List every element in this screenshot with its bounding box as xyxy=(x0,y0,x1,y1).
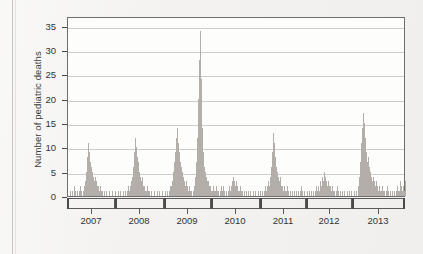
bar xyxy=(296,191,297,196)
x-axis-segment-separator xyxy=(306,198,308,209)
bar xyxy=(106,191,107,196)
x-axis-year-segment xyxy=(352,198,405,209)
y-axis-tick-label: 5 xyxy=(34,167,56,178)
bar xyxy=(118,191,119,196)
bar xyxy=(81,191,82,196)
bar xyxy=(292,191,293,196)
x-axis-tick-label: 2008 xyxy=(116,215,162,226)
page-margin-rule xyxy=(12,0,13,254)
x-axis-segment-separator xyxy=(211,198,213,209)
bar xyxy=(344,191,345,196)
x-axis-segment-separator xyxy=(403,198,405,209)
bar xyxy=(340,191,341,196)
figure-page: Number of pediatric deaths 0510152025303… xyxy=(0,0,423,254)
y-axis-title: Number of pediatric deaths xyxy=(32,10,43,210)
bar xyxy=(288,191,289,196)
x-axis-tick xyxy=(139,209,140,214)
x-axis-year-segment xyxy=(164,198,211,209)
bar xyxy=(294,191,295,196)
x-axis-tick-label: 2012 xyxy=(306,215,352,226)
x-axis-year-segment xyxy=(115,198,164,209)
x-axis-year-segment xyxy=(306,198,352,209)
bar xyxy=(224,191,225,196)
bar xyxy=(260,191,261,196)
bar xyxy=(250,191,251,196)
x-axis-tick-label: 2013 xyxy=(355,215,401,226)
x-axis-segment-separator xyxy=(115,198,117,209)
bar xyxy=(248,191,249,196)
bar xyxy=(356,191,357,196)
bar xyxy=(307,191,308,196)
x-axis-tick-label: 2010 xyxy=(212,215,258,226)
bar xyxy=(384,191,385,196)
bar xyxy=(311,191,312,196)
bar xyxy=(154,191,155,196)
bar xyxy=(102,191,103,196)
bar xyxy=(167,191,168,196)
y-axis-tick-label: 20 xyxy=(34,94,56,105)
plot-area xyxy=(67,17,405,197)
bar xyxy=(258,191,259,196)
y-axis-tick-label: 30 xyxy=(34,45,56,56)
bar xyxy=(313,191,314,196)
bar xyxy=(70,191,71,196)
page-margin-rule-secondary xyxy=(15,0,16,254)
bar xyxy=(394,191,395,196)
bar xyxy=(253,191,254,196)
x-axis-segment-separator xyxy=(260,198,262,209)
x-axis-segment-band xyxy=(67,198,405,209)
y-axis-tick-label: 0 xyxy=(34,191,56,202)
bar xyxy=(77,191,78,196)
x-axis-segment-separator xyxy=(67,198,69,209)
x-axis-tick-label: 2007 xyxy=(68,215,114,226)
bar xyxy=(334,191,335,196)
bar xyxy=(242,191,243,196)
bar xyxy=(302,191,303,196)
bar xyxy=(262,191,263,196)
y-axis-tick-label: 15 xyxy=(34,118,56,129)
bar xyxy=(304,191,305,196)
bar xyxy=(191,191,192,196)
bar xyxy=(347,191,348,196)
bar xyxy=(290,191,291,196)
bar xyxy=(120,191,121,196)
bar xyxy=(255,191,256,196)
x-axis-tick-label: 2011 xyxy=(260,215,306,226)
y-axis-tick-label: 10 xyxy=(34,142,56,153)
x-axis-tick xyxy=(91,209,92,214)
x-axis-tick xyxy=(235,209,236,214)
bar xyxy=(354,191,355,196)
bar xyxy=(338,191,339,196)
bar xyxy=(309,191,310,196)
bar xyxy=(149,191,150,196)
bar xyxy=(72,191,73,196)
bar-series xyxy=(68,18,404,196)
bar xyxy=(298,191,299,196)
bar xyxy=(349,191,350,196)
bar xyxy=(123,191,124,196)
bar xyxy=(157,191,158,196)
bar xyxy=(405,181,406,196)
bar xyxy=(112,191,113,196)
bar xyxy=(392,191,393,196)
bar xyxy=(390,191,391,196)
bar xyxy=(244,191,245,196)
bar xyxy=(246,191,247,196)
bar xyxy=(388,191,389,196)
x-axis-tick xyxy=(378,209,379,214)
x-axis-tick xyxy=(187,209,188,214)
bar xyxy=(104,191,105,196)
x-axis-tick-label: 2009 xyxy=(164,215,210,226)
bar xyxy=(351,191,352,196)
x-axis-tick xyxy=(329,209,330,214)
x-axis-segment-separator xyxy=(164,198,166,209)
bar xyxy=(151,191,152,196)
y-axis-tick-label: 35 xyxy=(34,21,56,32)
x-axis-year-segment xyxy=(260,198,306,209)
x-axis-year-segment xyxy=(211,198,260,209)
bar xyxy=(115,191,116,196)
y-axis-tick-label: 25 xyxy=(34,69,56,80)
bar xyxy=(342,191,343,196)
bar xyxy=(162,191,163,196)
bar xyxy=(159,191,160,196)
